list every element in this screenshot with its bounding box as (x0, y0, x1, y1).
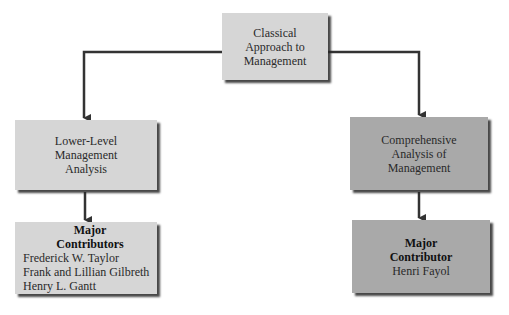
right-line-3: Management (388, 161, 451, 175)
comprehensive-analysis-box: Comprehensive Analysis of Management (350, 117, 488, 190)
right-line-1: Comprehensive (381, 133, 456, 147)
lower-level-analysis-box: Lower-Level Management Analysis (15, 120, 157, 190)
left-line-3: Analysis (65, 162, 107, 176)
contributor-name: Henry L. Gantt (23, 279, 96, 293)
connector-root-to-right (328, 52, 419, 115)
left-contributors-box: Major Contributors Frederick W. Taylor F… (15, 222, 157, 294)
left-contributors-heading-2: Contributors (56, 237, 123, 251)
right-contributor-heading-1: Major (405, 236, 438, 250)
right-contributor-heading-2: Contributor (390, 250, 453, 264)
root-box-classical-approach: Classical Approach to Management (222, 13, 328, 80)
left-contributors-heading-1: Major (74, 223, 107, 237)
contributor-name: Henri Fayol (392, 264, 450, 278)
connector-root-to-left (84, 52, 222, 118)
left-line-1: Lower-Level (55, 134, 117, 148)
root-line-3: Management (244, 54, 307, 68)
root-line-2: Approach to (245, 40, 305, 54)
right-contributor-box: Major Contributor Henri Fayol (352, 220, 490, 293)
root-line-1: Classical (253, 26, 296, 40)
contributor-name: Frank and Lillian Gilbreth (23, 265, 149, 279)
contributor-name: Frederick W. Taylor (23, 251, 119, 265)
right-line-2: Analysis of (392, 147, 447, 161)
left-line-2: Management (55, 148, 118, 162)
